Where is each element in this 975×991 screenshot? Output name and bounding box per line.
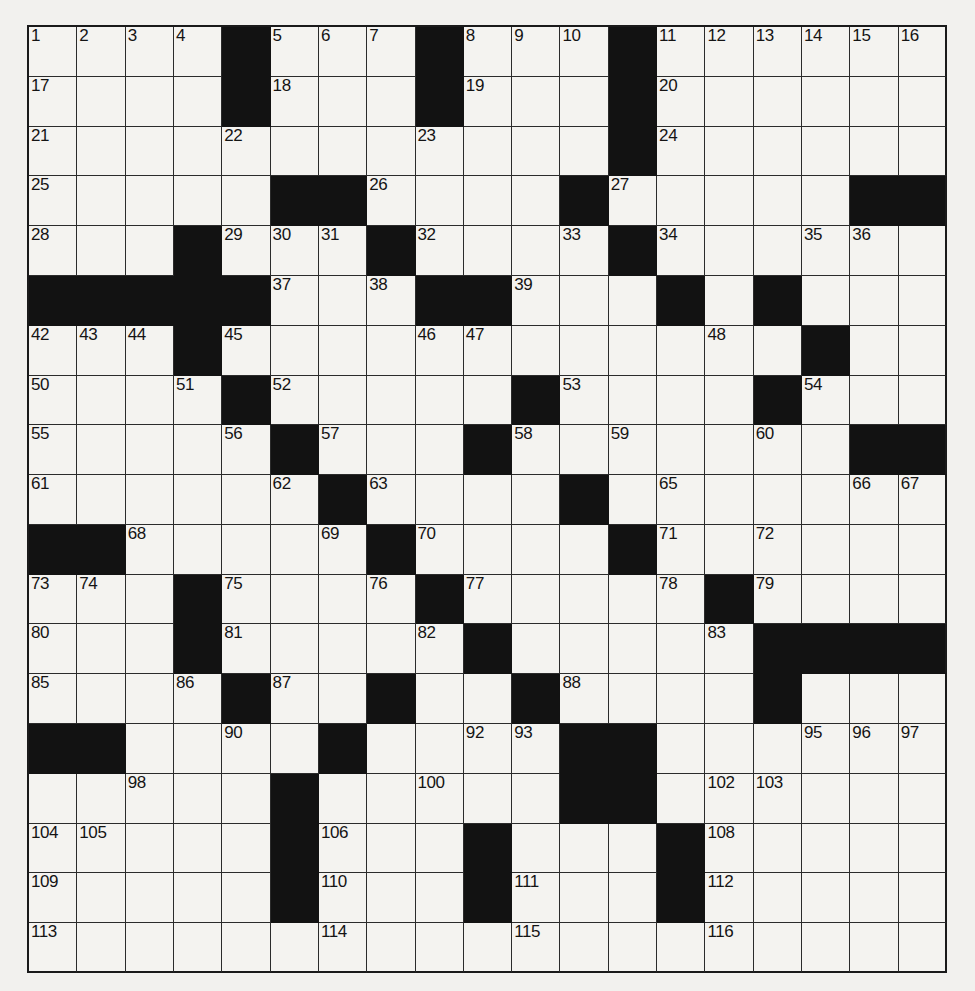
crossword-cell[interactable] bbox=[416, 923, 464, 973]
crossword-cell[interactable]: 18 bbox=[271, 77, 319, 127]
crossword-cell[interactable]: 39 bbox=[512, 276, 560, 326]
crossword-cell[interactable] bbox=[802, 923, 850, 973]
crossword-cell[interactable]: 60 bbox=[754, 425, 802, 475]
crossword-cell[interactable]: 81 bbox=[222, 624, 270, 674]
crossword-cell[interactable]: 74 bbox=[77, 575, 125, 625]
crossword-cell[interactable] bbox=[126, 77, 174, 127]
crossword-cell[interactable] bbox=[802, 873, 850, 923]
crossword-cell[interactable] bbox=[899, 127, 947, 177]
crossword-cell[interactable] bbox=[174, 475, 222, 525]
crossword-cell[interactable] bbox=[560, 77, 608, 127]
crossword-cell[interactable] bbox=[609, 824, 657, 874]
crossword-cell[interactable]: 24 bbox=[657, 127, 705, 177]
crossword-cell[interactable] bbox=[464, 923, 512, 973]
crossword-cell[interactable]: 114 bbox=[319, 923, 367, 973]
crossword-cell[interactable] bbox=[174, 724, 222, 774]
crossword-cell[interactable]: 69 bbox=[319, 525, 367, 575]
crossword-cell[interactable]: 58 bbox=[512, 425, 560, 475]
crossword-cell[interactable] bbox=[657, 326, 705, 376]
crossword-cell[interactable]: 1 bbox=[29, 27, 77, 77]
crossword-cell[interactable] bbox=[899, 575, 947, 625]
crossword-cell[interactable]: 63 bbox=[367, 475, 415, 525]
crossword-cell[interactable]: 32 bbox=[416, 226, 464, 276]
crossword-cell[interactable] bbox=[802, 425, 850, 475]
crossword-cell[interactable] bbox=[77, 425, 125, 475]
crossword-cell[interactable]: 102 bbox=[705, 774, 753, 824]
crossword-cell[interactable] bbox=[271, 923, 319, 973]
crossword-cell[interactable] bbox=[850, 525, 898, 575]
crossword-cell[interactable]: 28 bbox=[29, 226, 77, 276]
crossword-cell[interactable]: 21 bbox=[29, 127, 77, 177]
crossword-cell[interactable]: 44 bbox=[126, 326, 174, 376]
crossword-cell[interactable]: 23 bbox=[416, 127, 464, 177]
crossword-cell[interactable] bbox=[512, 326, 560, 376]
crossword-cell[interactable]: 30 bbox=[271, 226, 319, 276]
crossword-cell[interactable]: 50 bbox=[29, 376, 77, 426]
crossword-cell[interactable]: 77 bbox=[464, 575, 512, 625]
crossword-cell[interactable] bbox=[802, 525, 850, 575]
crossword-cell[interactable] bbox=[367, 77, 415, 127]
crossword-cell[interactable] bbox=[174, 873, 222, 923]
crossword-cell[interactable] bbox=[560, 326, 608, 376]
crossword-cell[interactable] bbox=[899, 525, 947, 575]
crossword-cell[interactable] bbox=[77, 475, 125, 525]
crossword-cell[interactable] bbox=[126, 873, 174, 923]
crossword-cell[interactable] bbox=[77, 127, 125, 177]
crossword-cell[interactable]: 83 bbox=[705, 624, 753, 674]
crossword-cell[interactable] bbox=[560, 624, 608, 674]
crossword-cell[interactable] bbox=[367, 624, 415, 674]
crossword-cell[interactable] bbox=[512, 525, 560, 575]
crossword-cell[interactable]: 7 bbox=[367, 27, 415, 77]
crossword-cell[interactable] bbox=[77, 624, 125, 674]
crossword-cell[interactable] bbox=[416, 824, 464, 874]
crossword-cell[interactable] bbox=[367, 376, 415, 426]
crossword-cell[interactable]: 15 bbox=[850, 27, 898, 77]
crossword-cell[interactable] bbox=[367, 774, 415, 824]
crossword-cell[interactable]: 46 bbox=[416, 326, 464, 376]
crossword-cell[interactable] bbox=[560, 276, 608, 326]
crossword-cell[interactable]: 13 bbox=[754, 27, 802, 77]
crossword-cell[interactable] bbox=[609, 624, 657, 674]
crossword-cell[interactable] bbox=[319, 276, 367, 326]
crossword-cell[interactable] bbox=[77, 176, 125, 226]
crossword-cell[interactable] bbox=[271, 624, 319, 674]
crossword-cell[interactable]: 76 bbox=[367, 575, 415, 625]
crossword-cell[interactable]: 6 bbox=[319, 27, 367, 77]
crossword-cell[interactable] bbox=[512, 176, 560, 226]
crossword-cell[interactable]: 92 bbox=[464, 724, 512, 774]
crossword-cell[interactable]: 35 bbox=[802, 226, 850, 276]
crossword-cell[interactable] bbox=[512, 127, 560, 177]
crossword-cell[interactable] bbox=[319, 624, 367, 674]
crossword-cell[interactable] bbox=[416, 376, 464, 426]
crossword-cell[interactable] bbox=[899, 276, 947, 326]
crossword-cell[interactable]: 95 bbox=[802, 724, 850, 774]
crossword-cell[interactable] bbox=[416, 176, 464, 226]
crossword-cell[interactable]: 9 bbox=[512, 27, 560, 77]
crossword-cell[interactable] bbox=[560, 127, 608, 177]
crossword-cell[interactable] bbox=[512, 774, 560, 824]
crossword-cell[interactable] bbox=[609, 376, 657, 426]
crossword-cell[interactable] bbox=[754, 475, 802, 525]
crossword-cell[interactable]: 27 bbox=[609, 176, 657, 226]
crossword-cell[interactable]: 54 bbox=[802, 376, 850, 426]
crossword-cell[interactable]: 37 bbox=[271, 276, 319, 326]
crossword-cell[interactable] bbox=[464, 525, 512, 575]
crossword-cell[interactable] bbox=[319, 575, 367, 625]
crossword-cell[interactable] bbox=[560, 824, 608, 874]
crossword-cell[interactable] bbox=[754, 226, 802, 276]
crossword-cell[interactable]: 3 bbox=[126, 27, 174, 77]
crossword-cell[interactable] bbox=[319, 326, 367, 376]
crossword-cell[interactable]: 42 bbox=[29, 326, 77, 376]
crossword-cell[interactable] bbox=[271, 525, 319, 575]
crossword-cell[interactable] bbox=[271, 127, 319, 177]
crossword-cell[interactable]: 56 bbox=[222, 425, 270, 475]
crossword-cell[interactable] bbox=[705, 77, 753, 127]
crossword-cell[interactable]: 62 bbox=[271, 475, 319, 525]
crossword-cell[interactable]: 90 bbox=[222, 724, 270, 774]
crossword-cell[interactable] bbox=[512, 624, 560, 674]
crossword-cell[interactable] bbox=[416, 475, 464, 525]
crossword-cell[interactable] bbox=[416, 724, 464, 774]
crossword-cell[interactable]: 45 bbox=[222, 326, 270, 376]
crossword-cell[interactable] bbox=[174, 774, 222, 824]
crossword-cell[interactable] bbox=[174, 824, 222, 874]
